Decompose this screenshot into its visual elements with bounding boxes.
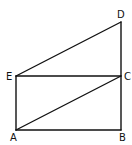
label-b: B bbox=[119, 132, 126, 143]
geometry-diagram: A B C D E bbox=[0, 0, 132, 145]
label-e: E bbox=[6, 71, 12, 82]
label-c: C bbox=[124, 71, 131, 82]
segment-de bbox=[16, 22, 121, 76]
label-d: D bbox=[117, 9, 125, 20]
label-a: A bbox=[10, 132, 17, 143]
segment-ac bbox=[16, 76, 121, 130]
